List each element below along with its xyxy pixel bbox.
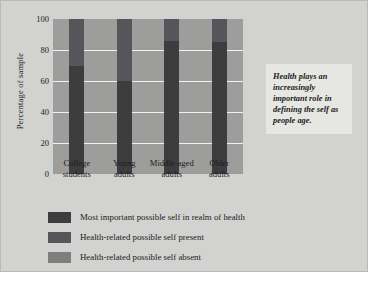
- y-axis-tick-label: 40: [41, 107, 50, 117]
- y-axis-tick-label: 0: [45, 169, 49, 179]
- y-axis-title: Percentage of sample: [15, 31, 25, 151]
- bar: [69, 19, 84, 174]
- legend-label: Health-related possible self absent: [80, 252, 201, 262]
- bar-segment-present: [117, 19, 132, 81]
- legend: Most important possible self in realm of…: [48, 209, 245, 269]
- bar-segment-present: [164, 19, 179, 41]
- x-axis-category-label: Olderadults: [209, 158, 230, 179]
- x-axis-category-label: Middle-agedadults: [150, 158, 194, 179]
- x-axis-category-label: Collegestudents: [63, 158, 91, 179]
- legend-swatch: [48, 232, 71, 243]
- plot-area: 020406080100: [53, 19, 243, 174]
- legend-item: Most important possible self in realm of…: [48, 209, 245, 225]
- y-axis-tick-label: 20: [41, 138, 50, 148]
- x-axis-category-label: Youngadults: [113, 158, 136, 179]
- bar: [164, 19, 179, 174]
- category-label-line: College: [63, 158, 91, 169]
- bar-segment-most-important: [212, 42, 227, 174]
- figure-panel: Percentage of sample 020406080100 Colleg…: [0, 0, 368, 272]
- legend-item: Health-related possible self present: [48, 229, 245, 245]
- bar-segment-present: [69, 19, 84, 66]
- legend-item: Health-related possible self absent: [48, 249, 245, 265]
- category-label-line: adults: [150, 169, 194, 180]
- category-label-line: adults: [209, 169, 230, 180]
- callout-note: Health plays an increasingly important r…: [266, 64, 352, 134]
- legend-swatch: [48, 212, 71, 223]
- legend-label: Most important possible self in realm of…: [80, 212, 245, 222]
- bar: [212, 19, 227, 174]
- legend-swatch: [48, 252, 71, 263]
- bar: [117, 19, 132, 174]
- bar-segment-most-important: [164, 41, 179, 174]
- category-label-line: Middle-aged: [150, 158, 194, 169]
- bar-segment-present: [212, 19, 227, 42]
- y-axis-tick-label: 60: [41, 76, 50, 86]
- category-label-line: Older: [209, 158, 230, 169]
- y-axis-tick-label: 100: [36, 14, 49, 24]
- category-label-line: Young: [113, 158, 136, 169]
- category-label-line: adults: [113, 169, 136, 180]
- category-label-line: students: [63, 169, 91, 180]
- y-axis-tick-label: 80: [41, 45, 50, 55]
- legend-label: Health-related possible self present: [80, 232, 204, 242]
